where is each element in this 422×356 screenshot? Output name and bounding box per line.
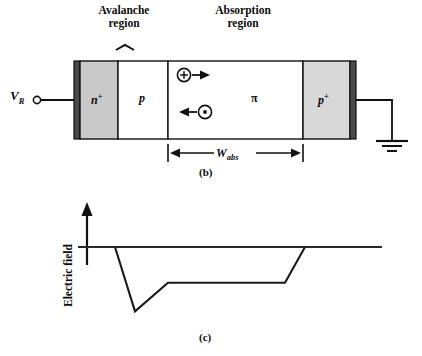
y-axis-arrow-icon xyxy=(82,202,93,216)
electric-field-chart xyxy=(0,196,422,346)
layer-label-n-plus: n+ xyxy=(91,91,103,108)
figure-container: Avalanche region Absorption region VR xyxy=(0,0,422,356)
wabs-arrowhead-right xyxy=(291,148,301,157)
panel-c-label: (c) xyxy=(199,331,211,343)
avalanche-region-heading: Avalanche region xyxy=(81,4,167,29)
panel-b-label: (b) xyxy=(199,166,212,178)
bias-terminal-node-icon xyxy=(33,96,40,103)
left-electrode xyxy=(74,61,80,139)
electric-field-curve xyxy=(115,247,305,311)
right-electrode xyxy=(350,61,356,139)
layer-label-p: p xyxy=(139,91,145,106)
layer-label-p-plus: p+ xyxy=(318,91,329,108)
wabs-label: Wabs xyxy=(216,146,238,162)
absorption-region-heading: Absorption region xyxy=(188,4,298,29)
wabs-arrowhead-left xyxy=(170,148,180,157)
wabs-dimension-line xyxy=(0,140,422,164)
layer-label-pi: π xyxy=(251,91,258,106)
right-lead-wire xyxy=(356,100,392,140)
avalanche-pointer-icon xyxy=(114,42,136,54)
